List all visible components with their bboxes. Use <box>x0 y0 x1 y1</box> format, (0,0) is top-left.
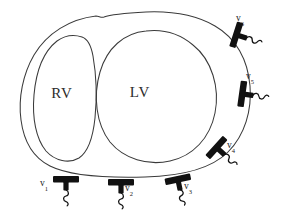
transducer-cable <box>223 153 238 167</box>
transducer-stem <box>118 185 123 194</box>
transducer-stem <box>63 182 68 191</box>
transducer-cable <box>253 93 269 100</box>
transducer-cable <box>119 193 124 209</box>
transducer-v5-body <box>237 81 270 111</box>
cardiac-diagram-canvas: RV LV v1 v2 <box>0 0 286 223</box>
lv-chamber-label: LV <box>130 84 151 100</box>
transducer-v1-body <box>53 176 79 206</box>
transducer-stem <box>238 33 248 41</box>
transducer-v5-label: v5 <box>246 71 254 85</box>
transducer-stem <box>244 92 254 98</box>
transducer-stem <box>176 181 183 191</box>
transducer-v2[interactable]: v2 <box>108 179 134 209</box>
transducer-v6[interactable]: v6 <box>229 13 265 55</box>
transducer-cable <box>178 189 186 205</box>
lv-endocardial-contour <box>96 31 216 163</box>
transducer-cable <box>246 36 263 45</box>
rv-chamber-label: RV <box>51 85 73 101</box>
transducer-v1-label: v1 <box>40 178 48 192</box>
transducer-v1[interactable]: v1 <box>40 176 79 206</box>
transducer-v5[interactable]: v5 <box>237 71 270 110</box>
transducer-v3[interactable]: v3 <box>164 173 196 208</box>
transducer-v6-body <box>229 21 265 55</box>
transducer-v3-label: v3 <box>184 181 192 195</box>
cardiac-cross-section-figure: RV LV v1 v2 <box>0 0 286 223</box>
transducer-cable <box>64 190 69 206</box>
